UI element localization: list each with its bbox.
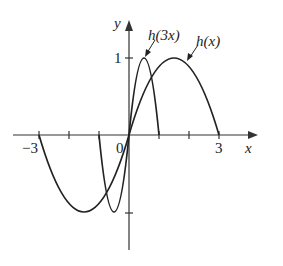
y-axis-label: y [112,15,121,31]
x-tick-label-3: 3 [215,140,223,156]
annotation-hx: h(x) [196,33,220,50]
chart: y x 0 −3 3 1 h(3x) h(x) [0,0,283,266]
annotation-h3x: h(3x) [148,27,180,44]
x-tick-label-neg3: −3 [22,140,38,156]
h3x-arrow-icon [145,49,151,57]
y-tick-label-1: 1 [114,50,122,66]
y-axis-arrow-icon [125,20,133,31]
origin-label: 0 [116,140,124,156]
x-axis-arrow-icon [248,131,258,139]
x-axis-label: x [244,140,252,156]
